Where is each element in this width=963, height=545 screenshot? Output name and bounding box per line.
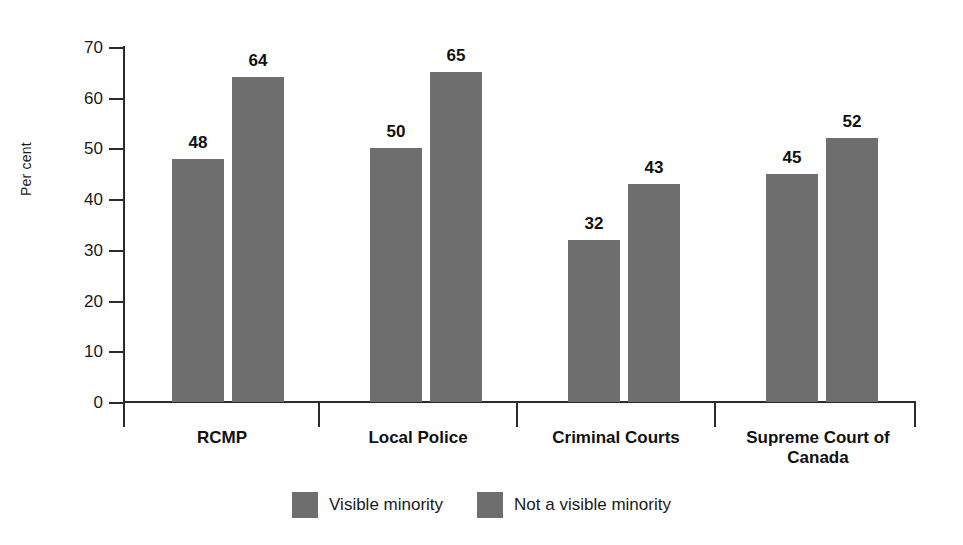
bar-criminal-courts-not-visible-minority: 43: [628, 184, 680, 402]
legend: Visible minority Not a visible minority: [0, 492, 963, 518]
y-tick-label-50: 50: [84, 139, 103, 159]
legend-item-visible-minority: Visible minority: [292, 492, 443, 518]
bar-chart: Per cent 70 60 50 40 30 20 10 0: [0, 0, 963, 545]
y-tick-label-20: 20: [84, 292, 103, 312]
category-label-local-police: Local Police: [326, 428, 510, 448]
x-axis-end-tick: [914, 401, 916, 427]
category-label-line: Criminal Courts: [524, 428, 708, 448]
y-tick-label-0: 0: [94, 393, 103, 413]
y-tick-label-70: 70: [84, 38, 103, 58]
category-label-rcmp: RCMP: [130, 428, 314, 448]
bar-local-police-visible-minority: 50: [370, 148, 422, 402]
y-tick-0: 0: [109, 402, 124, 404]
bar-supreme-court-visible-minority: 45: [766, 174, 818, 402]
legend-swatch-icon: [292, 492, 318, 518]
plot-area: 70 60 50 40 30 20 10 0 48 64: [124, 47, 915, 402]
bar-rcmp-visible-minority: 48: [172, 159, 224, 402]
y-tick-60: 60: [109, 98, 124, 100]
legend-label: Not a visible minority: [514, 495, 671, 515]
bar-value-label: 65: [447, 46, 466, 66]
y-tick-70: 70: [109, 47, 124, 49]
bar-value-label: 48: [189, 133, 208, 153]
category-label-line: RCMP: [130, 428, 314, 448]
bar-value-label: 50: [387, 122, 406, 142]
legend-swatch-icon: [477, 492, 503, 518]
group-separator-tick: [516, 402, 518, 427]
bar-value-label: 32: [585, 214, 604, 234]
bar-value-label: 64: [249, 51, 268, 71]
y-tick-50: 50: [109, 148, 124, 150]
y-tick-40: 40: [109, 199, 124, 201]
group-separator-tick: [714, 402, 716, 427]
y-tick-label-40: 40: [84, 190, 103, 210]
group-separator-tick: [318, 402, 320, 427]
bar-local-police-not-visible-minority: 65: [430, 72, 482, 402]
category-label-criminal-courts: Criminal Courts: [524, 428, 708, 448]
bar-criminal-courts-visible-minority: 32: [568, 240, 620, 402]
bar-value-label: 43: [645, 158, 664, 178]
bar-supreme-court-not-visible-minority: 52: [826, 138, 878, 402]
y-axis-title: Per cent: [18, 142, 34, 196]
y-tick-20: 20: [109, 301, 124, 303]
y-tick-label-30: 30: [84, 241, 103, 261]
legend-item-not-a-visible-minority: Not a visible minority: [477, 492, 671, 518]
y-tick-label-10: 10: [84, 342, 103, 362]
y-tick-10: 10: [109, 351, 124, 353]
bar-value-label: 45: [783, 148, 802, 168]
category-label-line: Canada: [722, 448, 914, 468]
category-label-line: Supreme Court of: [722, 428, 914, 448]
category-label-supreme-court-of-canada: Supreme Court of Canada: [722, 428, 914, 468]
bar-rcmp-not-visible-minority: 64: [232, 77, 284, 402]
category-label-line: Local Police: [326, 428, 510, 448]
bar-value-label: 52: [843, 112, 862, 132]
y-tick-30: 30: [109, 250, 124, 252]
y-tick-label-60: 60: [84, 89, 103, 109]
legend-label: Visible minority: [329, 495, 443, 515]
group-separator-tick: [123, 402, 125, 427]
